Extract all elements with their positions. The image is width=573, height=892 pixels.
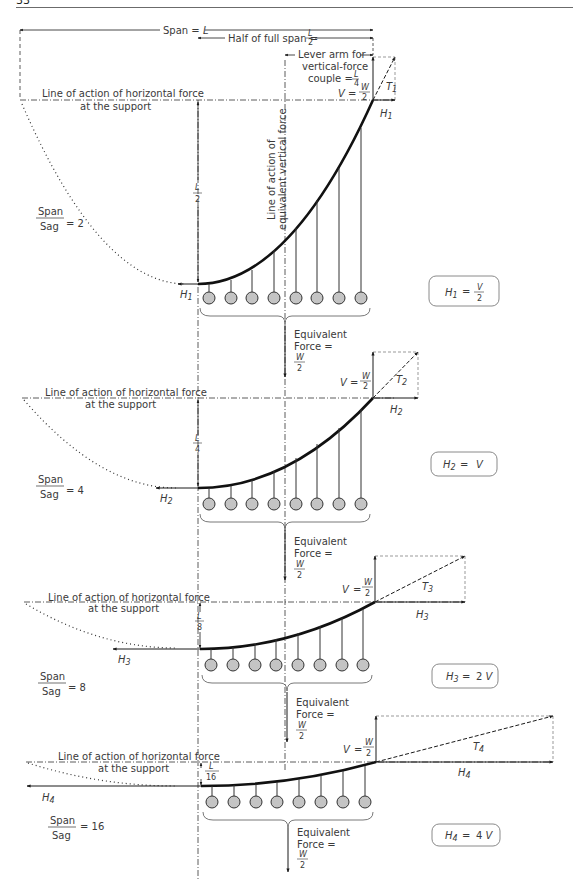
svg-text:H4: H4 <box>42 792 55 805</box>
svg-text:H4: H4 <box>445 830 458 843</box>
svg-text:V: V <box>340 377 348 388</box>
cable-sag-diagram: Span = L Half of full span = L 2 Lever a… <box>0 0 573 892</box>
svg-text:=: = <box>462 286 470 297</box>
svg-text:Equivalent: Equivalent <box>296 697 349 708</box>
panel-span-sag-2: Line of action of horizontal force at th… <box>20 57 499 377</box>
svg-text:Equivalent: Equivalent <box>297 827 350 838</box>
svg-text:8: 8 <box>197 623 202 632</box>
svg-text:Line of action of horizontal f: Line of action of horizontal force <box>48 592 210 603</box>
svg-text:=: = <box>348 88 356 99</box>
svg-text:V: V <box>342 584 350 595</box>
svg-text:2: 2 <box>308 38 313 47</box>
svg-text:Half of full span =: Half of full span = <box>228 33 318 44</box>
svg-text:W: W <box>296 353 305 362</box>
svg-text:Span: Span <box>40 671 65 682</box>
svg-text:= 2: = 2 <box>66 218 84 229</box>
svg-text:couple =: couple = <box>308 73 353 84</box>
svg-text:H3: H3 <box>416 609 429 622</box>
panel-span-sag-4: Line of action of horizontal force at th… <box>22 352 497 580</box>
svg-text:Sag: Sag <box>40 489 59 500</box>
svg-text:4 V: 4 V <box>476 830 494 841</box>
svg-text:L: L <box>308 29 312 38</box>
svg-text:L: L <box>354 70 358 79</box>
svg-text:Line of action of horizontal f: Line of action of horizontal force <box>45 387 207 398</box>
panel-span-sag-8: Line of action of horizontal force at th… <box>24 556 498 742</box>
svg-text:2: 2 <box>363 382 368 391</box>
svg-text:T4: T4 <box>473 741 484 754</box>
svg-text:H1: H1 <box>180 289 193 302</box>
svg-text:Line of action of horizontal f: Line of action of horizontal force <box>42 88 204 99</box>
svg-text:L: L <box>197 612 201 621</box>
svg-text:2: 2 <box>366 749 371 758</box>
svg-text:Force =: Force = <box>294 548 333 559</box>
line-of-action-label: Line of action of equivalent vertical fo… <box>266 108 288 230</box>
svg-text:equivalent vertical force: equivalent vertical force <box>277 108 288 230</box>
svg-text:H2: H2 <box>160 493 173 506</box>
svg-text:=: = <box>460 459 468 470</box>
svg-text:T1: T1 <box>386 81 397 94</box>
svg-text:V: V <box>338 88 346 99</box>
svg-text:= 4: = 4 <box>66 485 84 496</box>
svg-text:Span: Span <box>38 206 63 217</box>
svg-text:W: W <box>296 560 305 569</box>
svg-text:2: 2 <box>362 93 367 102</box>
svg-text:Equivalent: Equivalent <box>294 536 347 547</box>
svg-text:Line of action of: Line of action of <box>266 139 277 220</box>
svg-text:= 8: = 8 <box>68 682 86 693</box>
svg-text:H4: H4 <box>458 767 471 780</box>
svg-text:Sag: Sag <box>40 221 59 232</box>
svg-text:Force =: Force = <box>294 341 333 352</box>
svg-text:L: L <box>195 183 199 192</box>
svg-text:2: 2 <box>297 571 302 580</box>
svg-text:W: W <box>361 83 370 92</box>
svg-text:at the support: at the support <box>88 603 159 614</box>
svg-text:H2: H2 <box>443 459 456 472</box>
svg-text:H3: H3 <box>118 654 131 667</box>
half-span-dimension: Half of full span = L 2 <box>198 29 373 47</box>
svg-text:H1: H1 <box>445 287 458 300</box>
svg-text:Lever arm for: Lever arm for <box>298 49 367 60</box>
svg-text:Sag: Sag <box>52 830 71 841</box>
lever-arm-dimension: Lever arm for vertical-force couple = L … <box>285 49 373 88</box>
svg-text:=: = <box>353 584 361 595</box>
svg-text:L: L <box>195 434 199 443</box>
svg-text:2: 2 <box>299 732 304 741</box>
svg-text:2: 2 <box>297 364 302 373</box>
panel-span-sag-16: Line of action of horizontal force at th… <box>26 716 553 872</box>
svg-text:=: = <box>350 377 358 388</box>
svg-text:at the support: at the support <box>80 101 151 112</box>
svg-text:Sag: Sag <box>42 686 61 697</box>
svg-text:T3: T3 <box>422 581 433 594</box>
svg-text:2: 2 <box>365 589 370 598</box>
svg-text:= 16: = 16 <box>80 821 104 832</box>
svg-text:Equivalent: Equivalent <box>294 329 347 340</box>
svg-text:V: V <box>476 459 484 470</box>
svg-text:T2: T2 <box>396 374 407 387</box>
svg-text:V: V <box>477 283 483 292</box>
svg-text:=: = <box>462 830 470 841</box>
svg-text:2 V: 2 V <box>476 671 494 682</box>
svg-text:Span: Span <box>50 815 75 826</box>
svg-text:16: 16 <box>206 773 216 782</box>
span-dimension: Span = L <box>20 25 373 36</box>
svg-text:4: 4 <box>195 445 200 454</box>
svg-text:4: 4 <box>354 79 359 88</box>
svg-text:Force =: Force = <box>297 839 336 850</box>
svg-text:W: W <box>364 578 373 587</box>
svg-text:Line of action of horizontal f: Line of action of horizontal force <box>58 751 220 762</box>
svg-text:V: V <box>343 744 351 755</box>
svg-text:L: L <box>209 762 213 771</box>
svg-text:H3: H3 <box>446 671 459 684</box>
svg-text:W: W <box>298 721 307 730</box>
svg-text:W: W <box>365 738 374 747</box>
svg-text:2: 2 <box>477 294 482 303</box>
svg-text:W: W <box>362 372 371 381</box>
svg-text:Force =: Force = <box>296 709 335 720</box>
svg-text:Span: Span <box>38 474 63 485</box>
svg-text:=: = <box>462 671 470 682</box>
svg-text:Span = L: Span = L <box>163 25 208 36</box>
svg-text:at the support: at the support <box>85 399 156 410</box>
svg-text:2: 2 <box>300 861 305 870</box>
svg-text:at the support: at the support <box>98 763 169 774</box>
svg-text:2: 2 <box>195 195 200 204</box>
